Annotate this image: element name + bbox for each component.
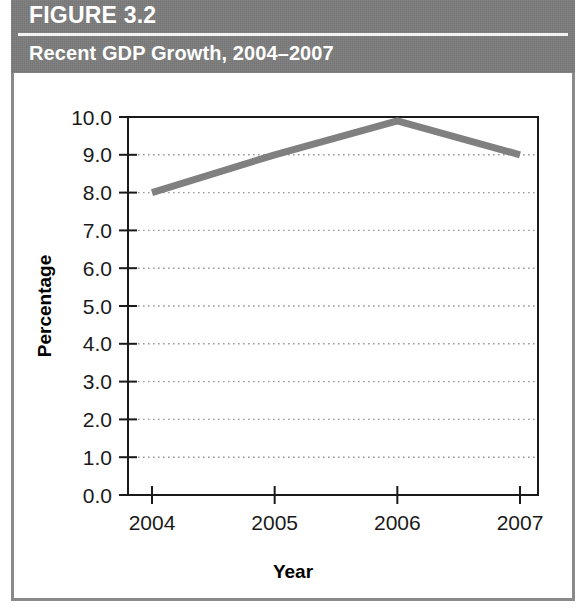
- figure-title: Recent GDP Growth, 2004–2007: [29, 42, 334, 65]
- y-axis-tick-label: 7.0: [83, 219, 112, 242]
- y-axis-tick-label: 2.0: [83, 408, 112, 431]
- y-axis-title: Percentage: [34, 255, 55, 357]
- y-axis-tick-label: 10.0: [71, 106, 112, 129]
- y-axis-tick-label: 4.0: [83, 332, 112, 355]
- x-axis-tick-label: 2006: [374, 511, 421, 534]
- x-axis-title: Year: [273, 561, 314, 582]
- gdp-growth-line-chart: 10.09.08.07.06.05.04.03.02.01.00.0 20042…: [11, 73, 575, 601]
- y-axis-tick-label: 5.0: [83, 295, 112, 318]
- x-axis-tick-label: 2004: [129, 511, 176, 534]
- chart-surface: 10.09.08.07.06.05.04.03.02.01.00.0 20042…: [11, 73, 575, 601]
- y-axis-tick-label: 1.0: [83, 446, 112, 469]
- y-axis-tick-labels-group: 10.09.08.07.06.05.04.03.02.01.00.0: [71, 106, 112, 507]
- x-axis-tick-label: 2005: [251, 511, 298, 534]
- y-axis-tick-label: 9.0: [83, 143, 112, 166]
- x-axis-tick-label: 2007: [497, 511, 544, 534]
- figure-number-label: FIGURE 3.2: [29, 2, 156, 29]
- header-divider-rule: [18, 33, 568, 36]
- figure-header-band: FIGURE 3.2 Recent GDP Growth, 2004–2007: [11, 0, 575, 73]
- y-axis-tick-label: 0.0: [83, 484, 112, 507]
- y-axis-tick-label: 8.0: [83, 181, 112, 204]
- figure-container: FIGURE 3.2 Recent GDP Growth, 2004–2007 …: [11, 0, 575, 601]
- x-axis-tick-labels-group: 2004200520062007: [129, 511, 544, 534]
- gdp-growth-series-line: [152, 121, 520, 193]
- y-axis-tick-label: 6.0: [83, 257, 112, 280]
- gridlines-group: [128, 155, 538, 457]
- y-axis-tick-label: 3.0: [83, 370, 112, 393]
